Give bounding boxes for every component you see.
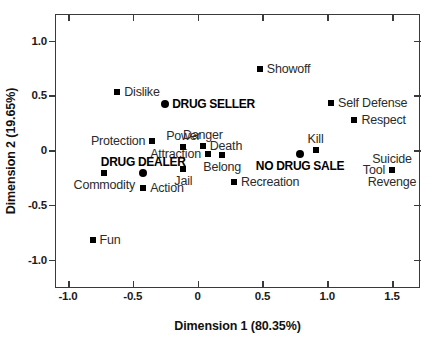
square-marker-icon	[389, 167, 395, 173]
square-marker-icon	[149, 138, 155, 144]
data-point-label: DRUG SELLER	[172, 97, 255, 111]
x-tick-top	[262, 14, 264, 21]
circle-marker-icon	[296, 150, 304, 158]
data-point-label: NO DRUG SALE	[256, 159, 344, 173]
x-tick-label: 1.0	[319, 290, 334, 302]
square-marker-icon	[351, 117, 357, 123]
x-tick	[327, 281, 329, 288]
scatter-chart: -1.0-0.500.51.01.51.00.50-0.5-1.0 Showof…	[0, 0, 436, 343]
data-point-label: Fun	[100, 233, 121, 247]
y-tick	[49, 205, 56, 207]
data-point-label: Commodity	[74, 178, 135, 192]
square-marker-icon	[257, 66, 263, 72]
x-tick	[198, 281, 200, 288]
x-tick-label: -0.5	[123, 290, 142, 302]
y-tick-right	[414, 95, 421, 97]
circle-marker-icon	[139, 169, 147, 177]
y-tick-label: 0	[41, 144, 47, 156]
square-marker-icon	[219, 152, 225, 158]
square-marker-icon	[313, 147, 319, 153]
x-tick-top	[392, 14, 394, 21]
square-marker-icon	[101, 170, 107, 176]
x-tick	[262, 281, 264, 288]
x-tick-top	[133, 14, 135, 21]
x-tick	[133, 281, 135, 288]
y-tick	[49, 260, 56, 262]
square-marker-icon	[328, 100, 334, 106]
y-tick-right	[414, 260, 421, 262]
x-axis-title: Dimension 1 (80.35%)	[55, 319, 420, 333]
y-tick	[49, 95, 56, 97]
y-tick	[49, 41, 56, 43]
data-point-label: Revenge	[368, 175, 417, 189]
data-point-label: Death	[210, 139, 242, 153]
data-point-label: Dislike	[124, 85, 159, 99]
x-tick-label: 1.5	[384, 290, 399, 302]
x-tick-label: -1.0	[58, 290, 77, 302]
data-point-label: Kill	[308, 132, 324, 146]
y-tick-label: 0.5	[32, 89, 47, 101]
y-tick-label: 1.0	[32, 35, 47, 47]
data-point-label: Action	[150, 181, 184, 195]
y-tick-right	[414, 150, 421, 152]
y-tick-right	[414, 205, 421, 207]
data-point-label: DRUG DEALER	[101, 155, 186, 169]
x-tick-top	[68, 14, 70, 21]
x-tick-top	[327, 14, 329, 21]
x-tick	[392, 281, 394, 288]
data-point-label: Protection	[91, 134, 145, 148]
square-marker-icon	[205, 151, 211, 157]
x-tick	[68, 281, 70, 288]
square-marker-icon	[231, 179, 237, 185]
square-marker-icon	[90, 237, 96, 243]
square-marker-icon	[114, 89, 120, 95]
square-marker-icon	[180, 166, 186, 172]
x-tick-label: 0.5	[255, 290, 270, 302]
y-tick-right	[414, 41, 421, 43]
y-tick	[49, 150, 56, 152]
data-point-label: Belong	[203, 160, 241, 174]
x-tick-top	[198, 14, 200, 21]
data-point-label: Showoff	[267, 62, 311, 76]
y-axis-title: Dimension 2 (19.65%)	[4, 88, 18, 215]
x-tick-label: 0	[194, 290, 200, 302]
data-point-label: Respect	[361, 113, 405, 127]
circle-marker-icon	[161, 100, 169, 108]
data-point-label: Recreation	[241, 175, 299, 189]
y-tick-label: -0.5	[28, 199, 47, 211]
square-marker-icon	[140, 185, 146, 191]
data-point-label: Self Defense	[338, 96, 407, 110]
y-tick-label: -1.0	[28, 254, 47, 266]
